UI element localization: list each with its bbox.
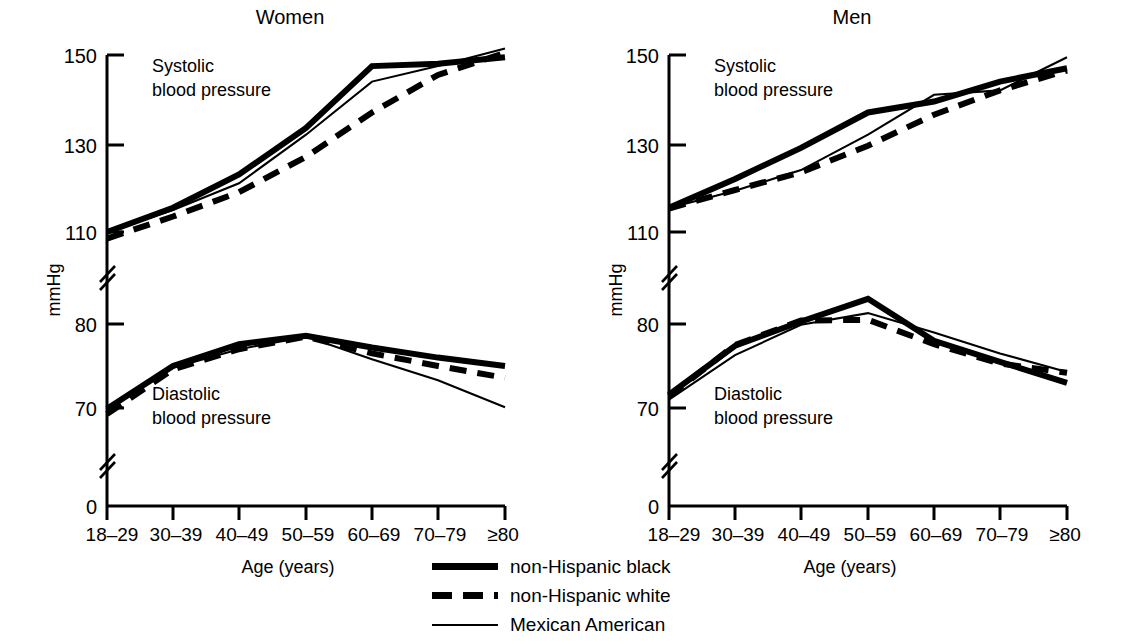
y-tick-label-110-women: 110 xyxy=(65,222,97,244)
y-tick-label-150-men: 150 xyxy=(626,45,659,67)
y-tick-label-0-women: 0 xyxy=(86,496,97,518)
systolic-note-line2-men: blood pressure xyxy=(714,80,833,100)
legend-line-white-icon xyxy=(432,586,498,606)
diastolic-note-line2-women: blood pressure xyxy=(152,408,271,428)
legend-line-black-icon xyxy=(432,557,498,577)
y-axis-title-men: mmHg xyxy=(606,264,626,317)
panel-men: Men 150 130 110 80 70 0 mmHg xyxy=(562,0,1124,580)
diastolic-note-line1-men: Diastolic xyxy=(714,384,782,404)
y-tick-label-80-women: 80 xyxy=(75,314,97,336)
legend-label-mexican-american: Mexican American xyxy=(510,615,665,635)
diastolic-note-line2-men: blood pressure xyxy=(714,408,833,428)
y-tick-label-130-men: 130 xyxy=(626,135,659,157)
diastolic-note-line1-women: Diastolic xyxy=(152,384,220,404)
x-tick-label-4-men: 60–69 xyxy=(910,524,963,545)
legend-entry-mexican-american: Mexican American xyxy=(432,610,752,639)
systolic-note-line1-women: Systolic xyxy=(152,56,214,76)
x-tick-label-1-men: 30–39 xyxy=(712,524,765,545)
systolic-note-line1-men: Systolic xyxy=(714,56,776,76)
x-tick-label-5-men: 70–79 xyxy=(976,524,1029,545)
y-tick-label-0-men: 0 xyxy=(648,496,659,518)
x-tick-label-2-men: 40–49 xyxy=(778,524,831,545)
series-group-women-systolic xyxy=(107,48,505,238)
blood-pressure-figure: Women 150 130 110 80 70 0 xyxy=(0,0,1124,644)
y-tick-label-70-men: 70 xyxy=(637,398,659,420)
legend-label-non-hispanic-black: non-Hispanic black xyxy=(510,557,671,577)
y-axis-title-women: mmHg xyxy=(44,264,64,317)
x-tick-label-2-women: 40–49 xyxy=(216,524,269,545)
legend-entry-non-hispanic-black: non-Hispanic black xyxy=(432,552,752,581)
panel-women: Women 150 130 110 80 70 0 xyxy=(0,0,562,580)
x-tick-label-0-men: 18–29 xyxy=(648,524,701,545)
y-tick-label-150-women: 150 xyxy=(64,45,97,67)
x-tick-label-4-women: 60–69 xyxy=(348,524,401,545)
y-tick-label-110-men: 110 xyxy=(627,222,659,244)
x-tick-label-5-women: 70–79 xyxy=(414,524,467,545)
x-tick-label-6-men: ≥80 xyxy=(1049,524,1081,545)
x-tick-label-3-men: 50–59 xyxy=(844,524,897,545)
panel-title-men: Men xyxy=(833,6,872,28)
legend-line-mexican-icon xyxy=(432,615,498,635)
x-tick-label-0-women: 18–29 xyxy=(86,524,139,545)
chart-men: Men 150 130 110 80 70 0 mmHg xyxy=(562,0,1124,580)
x-tick-label-6-women: ≥80 xyxy=(487,524,519,545)
x-tick-label-1-women: 30–39 xyxy=(150,524,203,545)
x-axis-title-women: Age (years) xyxy=(241,557,334,577)
y-tick-label-130-women: 130 xyxy=(64,135,97,157)
x-axis-title-men: Age (years) xyxy=(803,557,896,577)
panel-title-women: Women xyxy=(256,6,325,28)
y-tick-label-70-women: 70 xyxy=(75,398,97,420)
y-tick-label-80-men: 80 xyxy=(637,314,659,336)
legend: non-Hispanic black non-Hispanic white Me… xyxy=(432,552,752,639)
systolic-note-line2-women: blood pressure xyxy=(152,80,271,100)
legend-label-non-hispanic-white: non-Hispanic white xyxy=(510,586,671,606)
x-tick-label-3-women: 50–59 xyxy=(282,524,335,545)
chart-women: Women 150 130 110 80 70 0 xyxy=(0,0,562,580)
legend-entry-non-hispanic-white: non-Hispanic white xyxy=(432,581,752,610)
